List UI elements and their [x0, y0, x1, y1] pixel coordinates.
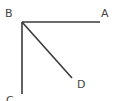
angle-diagram: B A C D: [0, 0, 114, 101]
point-label-c: C: [6, 94, 14, 101]
segment-bd: [22, 22, 72, 78]
point-label-a: A: [101, 7, 109, 20]
point-label-b: B: [5, 7, 13, 20]
point-label-d: D: [77, 78, 85, 91]
